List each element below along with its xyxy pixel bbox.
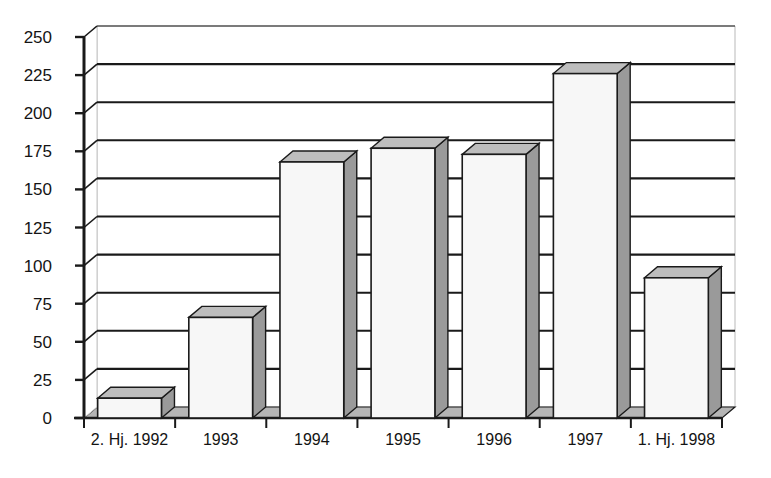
bar-front-face <box>280 162 344 418</box>
plot-area <box>0 0 771 478</box>
bar-column <box>462 143 539 418</box>
bar-top-face <box>462 143 539 154</box>
bar-front-face <box>553 74 617 418</box>
x-axis-tick-label: 1. Hj. 1998 <box>638 432 715 448</box>
x-axis-tick-label: 2. Hj. 1992 <box>91 432 168 448</box>
bar-top-face <box>280 151 357 162</box>
bar-side-face <box>708 267 721 418</box>
bar-front-face <box>371 148 435 418</box>
bar-side-face <box>617 63 630 418</box>
bar-column <box>645 267 722 418</box>
bar-front-face <box>98 398 162 418</box>
bar-top-face <box>98 387 175 398</box>
x-axis-tick-label: 1994 <box>294 432 330 448</box>
x-axis-tick-label: 1996 <box>476 432 512 448</box>
bar-column <box>280 151 357 418</box>
bar-front-face <box>189 317 253 418</box>
bar-top-face <box>189 306 266 317</box>
bar-side-face <box>435 137 448 418</box>
bar-top-face <box>645 267 722 278</box>
bar-side-face <box>344 151 357 418</box>
x-axis-tick-label: 1997 <box>567 432 603 448</box>
bar-front-face <box>462 154 526 418</box>
bar-front-face <box>645 278 709 418</box>
bar-side-face <box>526 143 539 418</box>
bar-column <box>553 63 630 418</box>
bar-top-face <box>553 63 630 74</box>
x-axis-tick-label: 1995 <box>385 432 421 448</box>
bar-column <box>189 306 266 418</box>
bar-column <box>98 387 175 418</box>
bar-side-face <box>253 306 266 418</box>
bar-column <box>371 137 448 418</box>
x-axis-tick-label: 1993 <box>203 432 239 448</box>
bar-top-face <box>371 137 448 148</box>
bar-chart: 2502252001751501251007550250 2. Hj. 1992… <box>0 0 771 478</box>
